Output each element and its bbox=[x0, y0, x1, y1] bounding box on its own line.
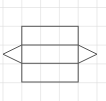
net-right-triangle bbox=[78, 45, 97, 63]
prism-net-diagram bbox=[0, 0, 106, 101]
prism-net-shape bbox=[3, 26, 97, 82]
net-rectangle bbox=[22, 26, 78, 82]
net-left-triangle bbox=[3, 45, 22, 63]
